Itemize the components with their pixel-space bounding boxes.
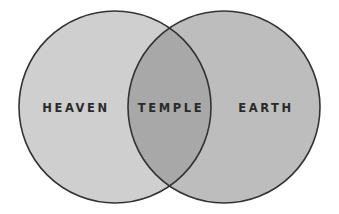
temple-label: TEMPLE [138,101,204,115]
earth-label: EARTH [238,101,294,115]
venn-diagram: HEAVEN TEMPLE EARTH [0,0,339,214]
heaven-label: HEAVEN [42,101,110,115]
